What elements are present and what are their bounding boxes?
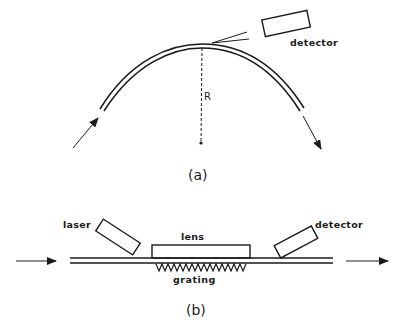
straight-waveguide bbox=[70, 258, 333, 263]
detector-label-a: detector bbox=[290, 37, 338, 48]
detector-label-b: detector bbox=[315, 219, 363, 230]
laser-box bbox=[96, 219, 141, 255]
detector-box-a bbox=[262, 10, 311, 36]
lens-box bbox=[152, 245, 250, 258]
figure-canvas: R detector (a) lens grating laser bbox=[0, 0, 399, 333]
lens-label: lens bbox=[181, 231, 204, 242]
center-point bbox=[199, 141, 202, 144]
panel-b: lens grating laser detector (b) bbox=[16, 219, 388, 318]
input-arrow bbox=[73, 118, 98, 148]
radius-label: R bbox=[204, 91, 211, 102]
laser-label: laser bbox=[63, 219, 91, 230]
caption-a: (a) bbox=[188, 167, 208, 183]
grating-label: grating bbox=[173, 274, 216, 285]
radius-line bbox=[201, 48, 202, 143]
grating-zigzag bbox=[156, 264, 246, 271]
detector-box-b bbox=[274, 226, 318, 258]
caption-b: (b) bbox=[186, 302, 206, 318]
panel-a: R detector (a) bbox=[73, 10, 338, 183]
output-arrow bbox=[303, 116, 321, 149]
radiation-rays bbox=[212, 32, 249, 43]
